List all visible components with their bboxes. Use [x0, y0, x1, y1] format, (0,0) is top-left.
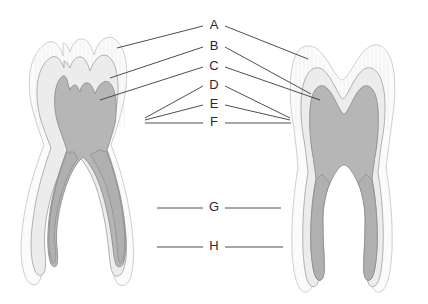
label-D: D: [209, 77, 218, 92]
left-tooth-pulp-outline: [48, 76, 126, 267]
label-C: C: [209, 58, 218, 73]
right-tooth-figure: [290, 44, 395, 292]
label-G: G: [209, 199, 219, 214]
leader-line-E-right: [225, 105, 290, 120]
leader-line-E-left: [145, 105, 203, 120]
left-tooth-figure: [21, 37, 133, 285]
leader-line-D-right: [225, 86, 290, 118]
label-H: H: [209, 238, 218, 253]
leader-line-A-left: [117, 26, 203, 48]
label-F: F: [210, 114, 218, 129]
label-E: E: [210, 96, 219, 111]
leader-line-D-left: [145, 86, 203, 118]
label-letters-group: A B C D E F G H: [209, 17, 219, 253]
diagram-canvas: A B C D E F G H: [0, 0, 428, 304]
label-B: B: [210, 38, 219, 53]
tooth-anatomy-diagram: A B C D E F G H: [0, 0, 428, 304]
label-A: A: [210, 17, 219, 32]
